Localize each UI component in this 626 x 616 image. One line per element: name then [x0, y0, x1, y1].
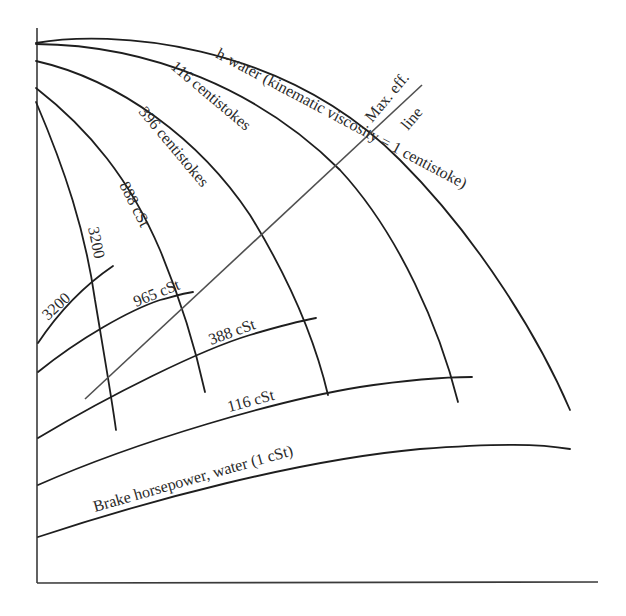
label-h-3200: 3200: [85, 225, 108, 260]
bhp-curve-388: [38, 318, 316, 438]
label-h-396: 396 centistokes: [136, 103, 213, 190]
label-bhp-116: 116 cSt: [225, 386, 276, 415]
label-max-eff-line: line: [397, 104, 425, 133]
head-curve-888: [36, 88, 205, 392]
x-axis: [37, 582, 598, 583]
label-bhp-965: 965 cSt: [131, 276, 183, 310]
pump-viscosity-diagram: h-water (kinematic viscosity = 1 centist…: [0, 0, 626, 616]
label-h-888: 888 cSt: [116, 179, 153, 230]
label-bhp-388: 388 cSt: [206, 315, 258, 348]
